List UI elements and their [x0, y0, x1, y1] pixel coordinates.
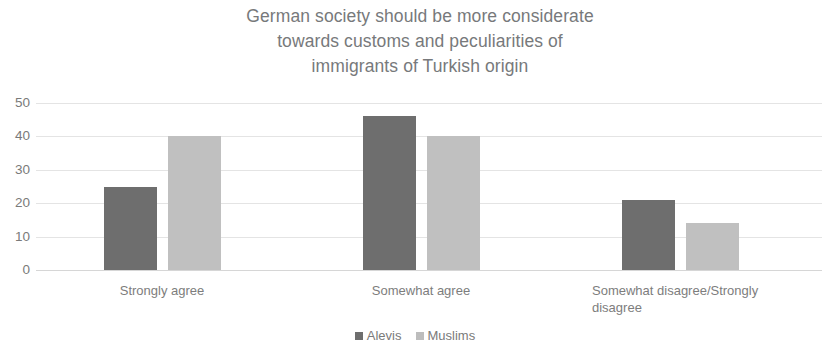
y-tick-10: 10: [0, 230, 30, 244]
bar-alevis-somewhat-agree: [363, 116, 416, 270]
chart-title-line-1: German society should be more considerat…: [150, 4, 690, 29]
bar-muslims-strongly-agree: [168, 136, 221, 270]
legend-swatch-icon-muslims: [416, 332, 424, 340]
chart-title: German society should be more considerat…: [150, 4, 690, 79]
chart-title-line-3: immigrants of Turkish origin: [150, 54, 690, 79]
legend-label-alevis: Alevis: [367, 329, 402, 343]
y-tick-30: 30: [0, 163, 30, 177]
y-tick-0: 0: [0, 263, 30, 277]
category-label-somewhat-agree: Somewhat agree: [341, 282, 501, 299]
y-axis-tick-labels: 50 40 30 20 10 0: [0, 100, 30, 273]
bar-series-container: [36, 100, 822, 271]
y-tick-50: 50: [0, 96, 30, 110]
bar-muslims-somewhat-agree: [427, 136, 480, 270]
bar-chart-figure: German society should be more considerat…: [0, 0, 830, 351]
legend-entry-alevis[interactable]: Alevis: [355, 329, 402, 343]
category-label-disagree: Somewhat disagree/Strongly disagree: [592, 282, 792, 316]
category-label-disagree-line-1: Somewhat disagree/Strongly: [592, 282, 792, 299]
category-label-strongly-agree-line-1: Strongly agree: [120, 283, 205, 298]
legend-swatch-icon-alevis: [355, 332, 363, 340]
y-tick-40: 40: [0, 130, 30, 144]
bar-alevis-disagree: [622, 200, 675, 270]
category-label-disagree-line-2: disagree: [592, 299, 792, 316]
category-label-somewhat-agree-line-1: Somewhat agree: [372, 283, 470, 298]
legend-entry-muslims[interactable]: Muslims: [416, 329, 476, 343]
category-label-strongly-agree: Strongly agree: [82, 282, 242, 299]
legend-label-muslims: Muslims: [428, 329, 476, 343]
bar-alevis-strongly-agree: [104, 187, 157, 271]
y-tick-20: 20: [0, 196, 30, 210]
chart-legend: Alevis Muslims: [0, 329, 830, 343]
x-axis-category-labels: Strongly agree Somewhat agree Somewhat d…: [36, 282, 822, 328]
chart-title-line-2: towards customs and peculiarities of: [150, 29, 690, 54]
bar-muslims-disagree: [686, 223, 739, 270]
